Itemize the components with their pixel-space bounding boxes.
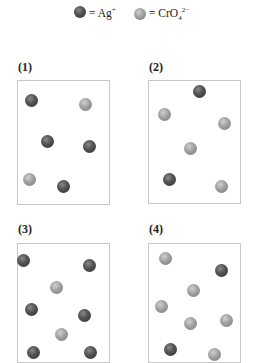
panel-label-1: (1) (18, 60, 32, 75)
chromate-ion-ball-icon (184, 317, 197, 330)
panel-label-4: (4) (149, 222, 163, 237)
silver-ion-ball-icon (17, 254, 30, 267)
chromate-ion-ball-icon (159, 252, 172, 265)
chromate-ion-ball-icon (55, 328, 68, 341)
panel-label-2: (2) (149, 60, 163, 75)
silver-ion-ball-icon (74, 6, 86, 18)
silver-ion-ball-icon (25, 94, 38, 107)
chromate-ion-ball-icon (215, 180, 228, 193)
silver-ion-ball-icon (83, 259, 96, 272)
chromate-ion-ball-icon (23, 173, 36, 186)
chromate-ion-ball-icon (134, 8, 146, 20)
silver-ion-ball-icon (84, 346, 97, 359)
chromate-ion-ball-icon (184, 142, 197, 155)
legend-label-silver: = Ag+ (89, 6, 116, 19)
chromate-ion-ball-icon (158, 108, 171, 121)
silver-ion-ball-icon (27, 346, 40, 359)
silver-ion-ball-icon (215, 264, 228, 277)
chromate-ion-ball-icon (220, 314, 233, 327)
silver-ion-ball-icon (193, 85, 206, 98)
silver-ion-ball-icon (78, 309, 91, 322)
chromate-ion-ball-icon (218, 117, 231, 130)
panel-label-3: (3) (18, 222, 32, 237)
chromate-ion-ball-icon (187, 284, 200, 297)
chromate-ion-ball-icon (79, 98, 92, 111)
chromate-ion-ball-icon (50, 281, 63, 294)
silver-ion-ball-icon (164, 343, 177, 356)
silver-ion-ball-icon (83, 140, 96, 153)
legend-label-chromate: = CrO42− (149, 6, 189, 22)
silver-ion-ball-icon (41, 135, 54, 148)
legend: = Ag+ = CrO42− (0, 6, 254, 22)
silver-ion-ball-icon (25, 303, 38, 316)
silver-ion-ball-icon (57, 180, 70, 193)
chromate-ion-ball-icon (208, 348, 221, 361)
chromate-ion-ball-icon (155, 300, 168, 313)
legend-item-silver: = Ag+ (74, 6, 116, 19)
silver-ion-ball-icon (163, 173, 176, 186)
legend-item-chromate: = CrO42− (134, 6, 189, 22)
